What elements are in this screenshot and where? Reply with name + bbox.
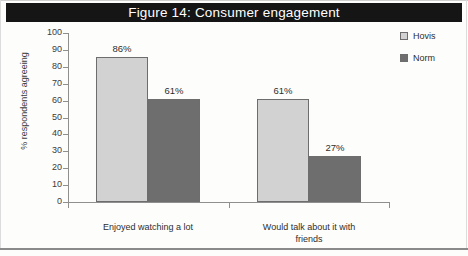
y-axis-tick-label-wrap: 50 [16, 113, 62, 122]
y-axis-tick-label-wrap: 40 [16, 129, 62, 138]
y-axis-tick-label-wrap: 100 [16, 28, 62, 37]
y-axis-tick-label: 70 [22, 79, 62, 88]
y-axis-tick-label-wrap: 30 [16, 146, 62, 155]
legend-item-norm[interactable]: Norm [400, 53, 462, 63]
legend-label: Hovis [413, 31, 436, 41]
y-axis-tick-label: 50 [22, 113, 62, 122]
y-axis-tick-label: 30 [22, 146, 62, 155]
y-axis-line [68, 33, 69, 203]
bar-hovis-1[interactable] [257, 99, 309, 202]
y-axis-tick [63, 84, 68, 85]
y-axis-tick-label: 80 [22, 62, 62, 71]
y-axis-tick [63, 33, 68, 34]
y-axis-tick [63, 118, 68, 119]
figure-container: Figure 14: Consumer engagement % respond… [0, 0, 468, 256]
y-axis-tick-label: 10 [22, 180, 62, 189]
x-axis-tick [229, 202, 230, 208]
y-axis-tick-label: 20 [22, 163, 62, 172]
y-axis-tick-label-wrap: 90 [16, 45, 62, 54]
legend-swatch-icon [400, 54, 408, 62]
y-axis-tick [63, 168, 68, 169]
bar-norm-0[interactable] [148, 99, 200, 202]
x-axis-category-label: Enjoyed watching a lot [68, 221, 228, 233]
bar-norm-1[interactable] [309, 156, 361, 202]
y-axis-tick-label-wrap: 70 [16, 79, 62, 88]
y-axis-tick-label-wrap: 0 [16, 197, 62, 206]
y-axis-tick [63, 101, 68, 102]
y-axis-tick-label-wrap: 60 [16, 96, 62, 105]
y-axis-tick-label: 40 [22, 129, 62, 138]
chart-plot-area: % respondents agreeing 10090807060504030… [0, 0, 468, 256]
y-axis-tick-label: 90 [22, 45, 62, 54]
x-axis-category-line: Would talk about it with [229, 221, 389, 233]
legend-swatch-icon [400, 32, 408, 40]
x-axis-category-line: friends [229, 233, 389, 245]
y-axis-tick-label-wrap: 80 [16, 62, 62, 71]
y-axis-tick-label-wrap: 20 [16, 163, 62, 172]
chart-legend: HovisNorm [400, 31, 462, 75]
bar-value-label: 61% [257, 85, 309, 96]
x-axis-category-line: Enjoyed watching a lot [68, 221, 228, 233]
y-axis-tick [63, 50, 68, 51]
legend-label: Norm [413, 53, 435, 63]
y-axis-tick-label: 0 [22, 197, 62, 206]
y-axis-tick [63, 67, 68, 68]
bar-hovis-0[interactable] [96, 57, 148, 202]
bar-value-label: 27% [309, 142, 361, 153]
y-axis-tick-label: 100 [22, 28, 62, 37]
y-axis-tick [63, 151, 68, 152]
x-axis-tick [68, 202, 69, 208]
x-axis-tick [389, 202, 390, 208]
bar-value-label: 86% [96, 43, 148, 54]
y-axis-tick-label-wrap: 10 [16, 180, 62, 189]
y-axis-tick [63, 185, 68, 186]
x-axis-category-label: Would talk about it withfriends [229, 221, 389, 245]
y-axis-tick [63, 134, 68, 135]
bar-value-label: 61% [148, 85, 200, 96]
legend-item-hovis[interactable]: Hovis [400, 31, 462, 41]
y-axis-tick-label: 60 [22, 96, 62, 105]
